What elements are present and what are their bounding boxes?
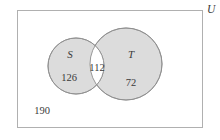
set-s-label: S [67,48,73,60]
intersection-count: 112 [89,62,104,73]
venn-diagram: S 126 112 T 72 190 U [0,0,220,140]
set-t-label: T [128,48,135,60]
venn-diagram-canvas: S 126 112 T 72 190 U [0,0,220,140]
outside-sets-count: 190 [34,105,50,116]
set-s-only-count: 126 [61,72,77,83]
set-t-only-count: 72 [126,77,137,88]
universal-set-label: U [207,3,216,15]
